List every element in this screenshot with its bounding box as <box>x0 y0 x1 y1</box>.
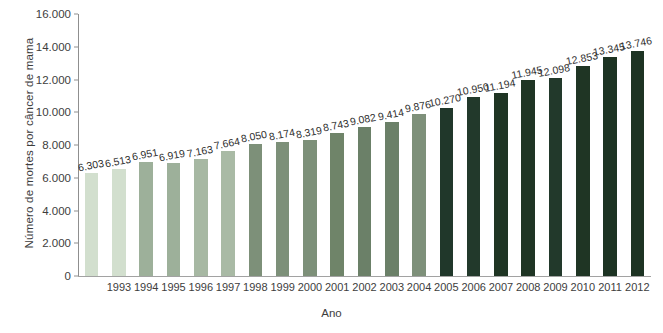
bar <box>576 66 590 276</box>
bar <box>467 97 481 276</box>
bar-slot: 6.303 <box>85 14 99 276</box>
x-tick-label: 2002 <box>352 281 376 293</box>
bar <box>249 144 263 276</box>
bar <box>85 173 99 276</box>
x-tick-label: 1994 <box>134 281 158 293</box>
bar <box>221 151 235 276</box>
bar-slot: 7.664 <box>221 14 235 276</box>
y-tick-label: 12.000 <box>36 74 78 86</box>
bar-slot: 8.743 <box>330 14 344 276</box>
x-tick-label: 2011 <box>598 281 622 293</box>
bar-slot: 10.950 <box>467 14 481 276</box>
x-tick-label: 2003 <box>380 281 404 293</box>
bar <box>358 127 372 276</box>
x-tick-label: 2007 <box>489 281 513 293</box>
bar-value-label: 9.414 <box>377 106 405 123</box>
x-axis-line <box>78 276 651 277</box>
bar <box>631 51 645 276</box>
bar-slot: 9.414 <box>385 14 399 276</box>
x-tick-label: 2010 <box>571 281 595 293</box>
bar-value-label: 8.319 <box>295 123 323 140</box>
bar-slot: 8.174 <box>276 14 290 276</box>
bar-slot: 9.876 <box>412 14 426 276</box>
bar <box>603 57 617 276</box>
bar-slot: 11.194 <box>494 14 508 276</box>
x-tick-label: 1993 <box>107 281 131 293</box>
bar-slot: 9.082 <box>358 14 372 276</box>
y-tick-label: 16.000 <box>36 8 78 20</box>
x-tick-label: 2000 <box>298 281 322 293</box>
bar-slot: 13.746 <box>631 14 645 276</box>
bar-slot: 7.163 <box>194 14 208 276</box>
bar-value-label: 8.050 <box>240 128 268 145</box>
x-tick-label: 2008 <box>516 281 540 293</box>
bar-value-label: 8.174 <box>267 126 295 143</box>
bar-value-label: 13.746 <box>619 34 653 52</box>
bar <box>167 163 181 276</box>
bar-slot: 8.319 <box>303 14 317 276</box>
bar <box>303 140 317 276</box>
y-tick-label: 8.000 <box>42 139 78 151</box>
bar-slot: 6.951 <box>139 14 153 276</box>
bar-slot: 10.270 <box>440 14 454 276</box>
bar <box>549 78 563 276</box>
x-tick-label: 1997 <box>216 281 240 293</box>
y-axis-title: Número de mortes por câncer de mama <box>23 18 35 268</box>
bar <box>194 159 208 276</box>
x-tick-label: 2005 <box>434 281 458 293</box>
y-tick-label: 14.000 <box>36 41 78 53</box>
bar-value-label: 6.303 <box>76 157 104 174</box>
bar-slot: 12.098 <box>549 14 563 276</box>
bar <box>330 133 344 276</box>
bar <box>276 142 290 276</box>
bar-slot: 11.945 <box>521 14 535 276</box>
bar-value-label: 7.163 <box>186 142 214 159</box>
plot-area: 02.0004.0006.0008.00010.00012.00014.0001… <box>78 14 651 276</box>
bar-value-label: 6.951 <box>131 146 159 163</box>
bar <box>494 93 508 276</box>
bar-value-label: 9.082 <box>349 111 377 128</box>
bar-slot: 6.919 <box>167 14 181 276</box>
bar-slot: 13.345 <box>603 14 617 276</box>
bar-value-label: 7.664 <box>213 134 241 151</box>
bars-layer: 6.3036.5136.9516.9197.1637.6648.0508.174… <box>78 14 651 276</box>
bar-value-label: 8.743 <box>322 117 350 134</box>
bar-slot: 8.050 <box>249 14 263 276</box>
x-tick-label: 2001 <box>325 281 349 293</box>
y-tick-label: 2.000 <box>42 237 78 249</box>
bar <box>385 122 399 276</box>
x-tick-label: 1995 <box>161 281 185 293</box>
x-axis-ticks: 1993199419951996199719981999200020012002… <box>78 281 651 299</box>
y-tick-label: 6.000 <box>42 172 78 184</box>
bar-slot: 6.513 <box>112 14 126 276</box>
x-tick-label: 1999 <box>270 281 294 293</box>
bar <box>139 162 153 276</box>
bar-value-label: 6.919 <box>158 146 186 163</box>
bar <box>521 80 535 276</box>
x-axis-title: Ano <box>0 307 663 319</box>
x-tick-label: 1998 <box>243 281 267 293</box>
x-tick-label: 2006 <box>461 281 485 293</box>
x-tick-label: 2012 <box>625 281 649 293</box>
y-tick-label: 10.000 <box>36 106 78 118</box>
y-tick-label: 4.000 <box>42 205 78 217</box>
x-tick-label: 1996 <box>189 281 213 293</box>
x-tick-label: 2004 <box>407 281 431 293</box>
bar <box>112 169 126 276</box>
bar <box>440 108 454 276</box>
breast-cancer-deaths-bar-chart: Número de mortes por câncer de mama 02.0… <box>0 0 663 333</box>
bar <box>412 114 426 276</box>
bar-value-label: 6.513 <box>104 153 132 170</box>
bar-slot: 12.853 <box>576 14 590 276</box>
x-tick-label: 2009 <box>543 281 567 293</box>
